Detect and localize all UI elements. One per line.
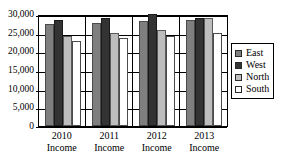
- legend-item-west[interactable]: West: [235, 59, 269, 71]
- legend-label: East: [246, 48, 263, 58]
- x-axis-category-label: 2011Income: [86, 130, 134, 153]
- bar-east: [186, 20, 195, 126]
- legend-label: West: [246, 60, 266, 70]
- category-year: 2011: [99, 130, 119, 141]
- plot-area: [38, 15, 228, 127]
- legend-item-south[interactable]: South: [235, 83, 269, 95]
- category-metric: Income: [181, 142, 229, 154]
- bar-group: [86, 16, 133, 126]
- legend-swatch-icon: [235, 62, 242, 69]
- bar-east: [45, 24, 54, 126]
- category-metric: Income: [38, 142, 86, 154]
- y-axis-tick-label: 20,000: [8, 48, 34, 58]
- y-axis-tick-label: 25,000: [8, 29, 34, 39]
- bar-chart: 05,00010,00015,00020,00025,00030,000 201…: [0, 0, 292, 162]
- y-axis-tick-label: 5,000: [13, 104, 34, 114]
- legend-item-north[interactable]: North: [235, 71, 269, 83]
- bar-east: [139, 21, 148, 126]
- legend-item-east[interactable]: East: [235, 47, 269, 59]
- x-axis-category-label: 2013Income: [181, 130, 229, 153]
- bar-east: [92, 23, 101, 126]
- legend-swatch-icon: [235, 86, 242, 93]
- legend-swatch-icon: [235, 50, 242, 57]
- y-axis-tick: [36, 127, 39, 128]
- chart-legend: EastWestNorthSouth: [231, 43, 274, 99]
- y-axis-tick-label: 10,000: [8, 85, 34, 95]
- category-year: 2012: [147, 130, 167, 141]
- bar-south: [166, 36, 175, 126]
- bar-group: [180, 16, 227, 126]
- bar-south: [213, 33, 222, 126]
- bar-south: [72, 41, 81, 126]
- y-axis-tick-label: 15,000: [8, 66, 34, 76]
- category-year: 2013: [194, 130, 214, 141]
- bar-west: [148, 14, 157, 126]
- bar-north: [204, 18, 213, 126]
- bar-south: [119, 38, 128, 126]
- category-metric: Income: [86, 142, 134, 154]
- bar-west: [54, 20, 63, 126]
- bar-group: [39, 16, 86, 126]
- x-axis-category-labels: 2010Income2011Income2012Income2013Income: [38, 130, 228, 153]
- bar-north: [110, 33, 119, 126]
- gridline: [39, 127, 227, 128]
- bar-north: [63, 36, 72, 126]
- y-axis-tick-labels: 05,00010,00015,00020,00025,00030,000: [0, 10, 36, 132]
- y-axis-tick-label: 0: [29, 122, 34, 132]
- legend-label: North: [246, 72, 269, 82]
- x-axis-category-label: 2010Income: [38, 130, 86, 153]
- category-year: 2010: [52, 130, 72, 141]
- legend-swatch-icon: [235, 74, 242, 81]
- bar-north: [157, 30, 166, 126]
- category-metric: Income: [133, 142, 181, 154]
- y-axis-tick-label: 30,000: [8, 10, 34, 20]
- bar-west: [195, 18, 204, 126]
- x-axis-category-label: 2012Income: [133, 130, 181, 153]
- legend-label: South: [246, 84, 269, 94]
- bar-groups: [39, 16, 227, 126]
- bar-group: [133, 16, 180, 126]
- bar-west: [101, 18, 110, 126]
